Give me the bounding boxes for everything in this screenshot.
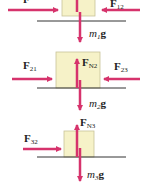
label-m1g: m1g [89,28,106,41]
label-m2g: m2g [89,98,106,111]
label-F32: F32 [24,133,38,146]
block-3-graphics [0,115,143,185]
block-1 [62,0,95,16]
label-F21: F21 [23,60,37,73]
label-m3g: m3g [87,169,104,182]
free-body-diagram-block-1: F F12 m1g [0,0,143,55]
label-F23: F23 [114,61,128,74]
label-F12: F12 [110,0,124,11]
label-FN2: FN2 [82,57,97,70]
free-body-diagram-block-3: F32 FN3 m3g [0,115,143,185]
free-body-diagram-block-2: F21 FN2 F23 m2g [0,55,143,115]
label-F-applied: F [23,0,30,5]
label-FN3: FN3 [80,117,95,130]
